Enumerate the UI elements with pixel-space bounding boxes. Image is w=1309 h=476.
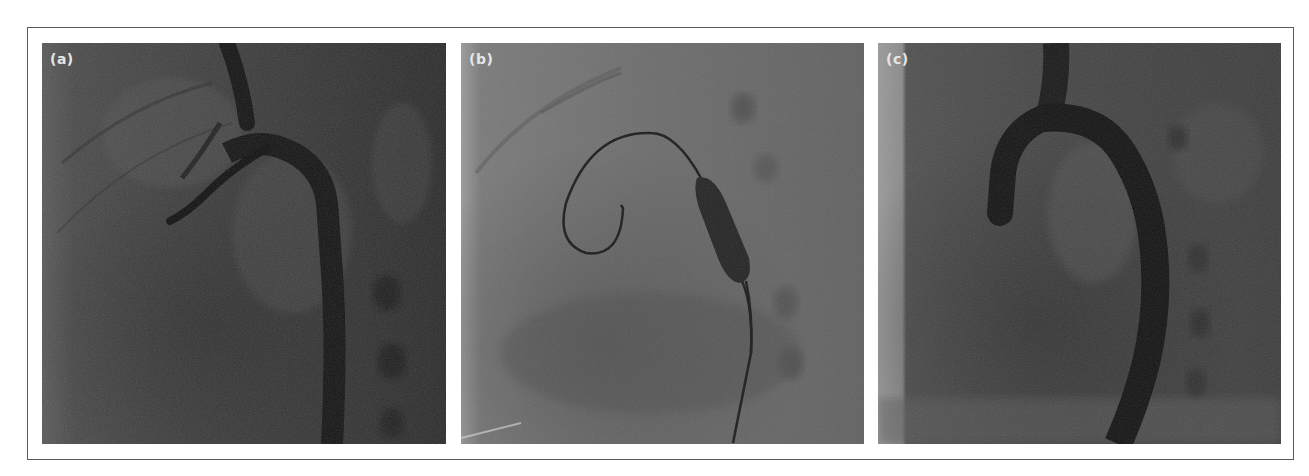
panel-c-angiogram: (c)	[878, 43, 1281, 444]
panel-a-angiogram: (a)	[42, 43, 446, 444]
angiogram-image	[878, 43, 1281, 444]
panel-label-b: (b)	[469, 51, 493, 67]
panel-label-c: (c)	[886, 51, 909, 67]
angiogram-image	[42, 43, 446, 444]
fluoroscopy-image	[461, 43, 864, 444]
panel-b-balloon-dilation: (b)	[461, 43, 864, 444]
panel-label-a: (a)	[50, 51, 74, 67]
